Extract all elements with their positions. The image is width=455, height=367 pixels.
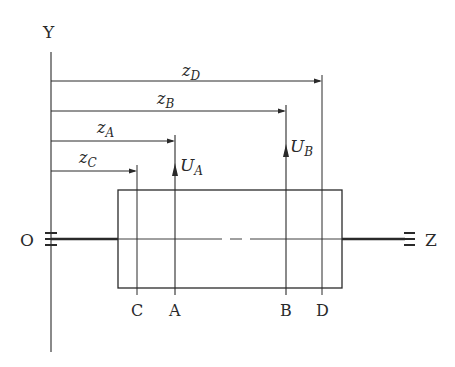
z-axis-label: Z <box>425 230 437 250</box>
dimension-label-zB: zB <box>156 89 174 111</box>
y-axis-label: Y <box>42 22 55 42</box>
dimension-label-zD: zD <box>181 61 200 83</box>
point-label-C: C <box>131 301 143 320</box>
dimension-label-zA: zA <box>96 118 114 140</box>
point-label-A: A <box>168 301 181 320</box>
bearing-right-icon <box>404 233 415 245</box>
shaft-diagram: Y zD zB zA zC UA UB O Z C A B <box>0 0 455 367</box>
force-arrow-UA-icon <box>172 163 178 176</box>
origin-label: O <box>20 230 34 250</box>
force-arrow-UB-icon <box>283 144 289 157</box>
force-label-UA: UA <box>180 155 203 178</box>
force-label-UB: UB <box>290 136 313 159</box>
arrowhead-zB-icon <box>278 109 286 114</box>
point-label-D: D <box>316 301 329 320</box>
arrowhead-zA-icon <box>167 139 175 144</box>
arrowhead-zC-icon <box>129 169 137 174</box>
dimension-label-zC: zC <box>78 148 97 170</box>
arrowhead-zD-icon <box>314 79 322 84</box>
point-label-B: B <box>280 301 292 320</box>
